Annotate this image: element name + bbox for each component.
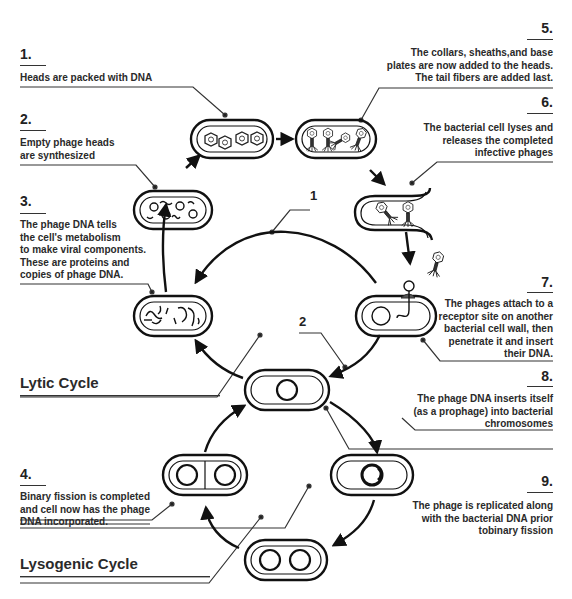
cell-heads-packed — [191, 120, 273, 158]
cell-prophage-integrated — [331, 455, 413, 495]
step-2-number: 2. — [20, 111, 32, 127]
step-6-text: The bacterial cell lyses and releases th… — [423, 122, 553, 160]
cell-lysing — [355, 188, 432, 240]
step-4-number: 4. — [20, 466, 32, 482]
step-5-text: The collars, sheaths,and base plates are… — [387, 47, 553, 85]
cell-attachment — [356, 281, 436, 336]
step-7-number: 7. — [541, 274, 553, 290]
cycle-arrows — [163, 139, 410, 548]
lytic-cycle-label: Lytic Cycle — [20, 374, 99, 391]
step-2-text: Empty phage heads are synthesized — [20, 137, 114, 162]
step-5-number: 5. — [541, 20, 553, 36]
cell-assembly — [296, 120, 376, 158]
step-1-rule — [20, 65, 46, 66]
step-9-rule — [527, 492, 553, 493]
step-3-rule — [20, 213, 46, 214]
step-3-text: The phage DNA tells the cell's metabolis… — [20, 219, 146, 282]
step-4-rule — [20, 485, 46, 486]
path-label-2: 2 — [299, 314, 306, 329]
step-8-number: 8. — [541, 368, 553, 384]
step-8-text: The phage DNA inserts itself (as a proph… — [414, 393, 553, 431]
step-6-number: 6. — [541, 94, 553, 110]
step-1-number: 1. — [20, 46, 32, 62]
step-4-text: Binary fission is completed and cell now… — [20, 491, 150, 529]
lysogenic-cycle-label: Lysogenic Cycle — [20, 555, 138, 572]
step-9-number: 9. — [541, 473, 553, 489]
step-3-number: 3. — [20, 193, 32, 209]
cell-divided — [163, 455, 247, 495]
step-5-rule — [527, 39, 553, 40]
step-7-text: The phages attach to a receptor site on … — [439, 298, 553, 361]
step-2-rule — [20, 130, 46, 131]
step-9-text: The phage is replicated along with the b… — [412, 500, 553, 538]
cell-dividing — [245, 540, 327, 580]
cell-prophage-center — [245, 370, 329, 410]
step-8-rule — [527, 386, 553, 387]
bacterial-cells — [134, 120, 446, 580]
step-6-rule — [527, 113, 553, 114]
cell-dna-fragments — [134, 296, 212, 336]
path-label-1: 1 — [310, 188, 317, 203]
step-1-text: Heads are packed with DNA — [20, 72, 152, 85]
step-7-rule — [527, 292, 553, 293]
free-phage — [427, 250, 446, 278]
